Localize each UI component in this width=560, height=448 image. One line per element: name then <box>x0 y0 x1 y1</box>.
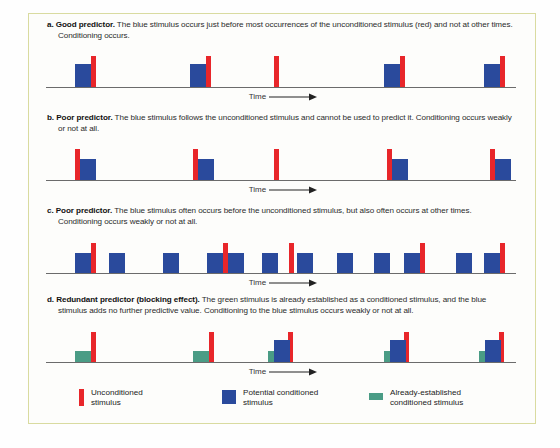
panel-b: b. Poor predictor. The blue stimulus fol… <box>29 113 537 201</box>
potential-conditioned-stimulus-swatch-icon <box>222 390 236 404</box>
legend-item-potential-conditioned: Potential conditioned stimulus <box>222 388 318 409</box>
time-arrow-icon <box>269 93 317 101</box>
panel-b-plot <box>46 136 516 180</box>
bar-green <box>75 351 91 362</box>
panel-b-axis <box>46 180 516 181</box>
legend-item-already-established: Already-established conditioned stimulus <box>369 388 463 409</box>
panel-a-marker: a. <box>47 20 54 29</box>
panel-a-axis <box>46 87 516 88</box>
bar-red <box>75 149 80 180</box>
panel-d: d. Redundant predictor (blocking effect)… <box>29 295 537 383</box>
bar-red <box>490 149 495 180</box>
panel-d-time: Time <box>29 367 537 376</box>
panel-d-time-label: Time <box>249 367 266 376</box>
legend-label-already-established: Already-established conditioned stimulus <box>390 388 463 409</box>
bar-red <box>289 243 294 273</box>
bar-blue <box>262 253 278 273</box>
panel-c-plot <box>46 229 516 273</box>
legend-label-potential-conditioned: Potential conditioned stimulus <box>243 388 318 409</box>
bar-red <box>91 243 96 273</box>
bar-red <box>274 56 279 87</box>
bar-red <box>500 56 505 87</box>
panel-d-marker: d. <box>47 295 54 304</box>
bar-red <box>387 149 392 180</box>
panel-b-time-label: Time <box>249 185 266 194</box>
panel-d-caption: d. Redundant predictor (blocking effect)… <box>47 295 517 316</box>
panel-a-plot <box>46 43 516 87</box>
panel-d-axis <box>46 362 516 363</box>
bar-blue <box>207 253 223 273</box>
panel-c-time-label: Time <box>249 278 266 287</box>
panel-b-caption: b. Poor predictor. The blue stimulus fol… <box>47 113 517 134</box>
time-arrow-icon <box>269 279 317 287</box>
bar-red <box>420 243 425 273</box>
panel-a: a. Good predictor. The blue stimulus occ… <box>29 20 537 108</box>
panel-a-time-label: Time <box>249 92 266 101</box>
bar-blue <box>75 64 91 87</box>
bar-blue <box>485 340 501 362</box>
bar-blue <box>80 159 96 180</box>
bar-blue <box>484 253 500 273</box>
bar-blue <box>190 64 206 87</box>
panel-c-title: Poor predictor. <box>56 206 112 215</box>
bar-blue <box>456 253 472 273</box>
bar-blue <box>198 159 214 180</box>
bar-blue <box>109 253 125 273</box>
bar-red <box>500 243 505 273</box>
bar-red <box>91 56 96 87</box>
bar-blue <box>484 64 500 87</box>
bar-blue <box>337 253 353 273</box>
panel-d-title: Redundant predictor (blocking effect). <box>56 295 200 304</box>
bar-red <box>209 332 214 362</box>
bar-blue <box>297 253 313 273</box>
bar-red <box>91 332 96 362</box>
already-established-conditioned-stimulus-swatch-icon <box>369 393 383 400</box>
panel-a-caption: a. Good predictor. The blue stimulus occ… <box>47 20 517 41</box>
bar-blue <box>392 159 408 180</box>
panel-d-plot <box>46 318 516 362</box>
panel-c-marker: c. <box>47 206 54 215</box>
bar-blue <box>374 253 390 273</box>
bar-blue <box>163 253 179 273</box>
panel-c: c. Poor predictor. The blue stimulus oft… <box>29 206 537 294</box>
bar-blue <box>384 64 400 87</box>
bar-blue <box>274 340 290 362</box>
figure-root: a. Good predictor. The blue stimulus occ… <box>0 0 560 448</box>
bar-blue <box>390 340 406 362</box>
bar-blue <box>75 253 91 273</box>
legend-item-unconditioned: Unconditioned stimulus <box>79 388 143 409</box>
bar-red <box>206 56 211 87</box>
unconditioned-stimulus-swatch-icon <box>79 389 84 406</box>
legend-label-unconditioned: Unconditioned stimulus <box>91 388 143 409</box>
panel-b-body: The blue stimulus follows the unconditio… <box>58 113 512 133</box>
time-arrow-icon <box>269 368 317 376</box>
figure-frame: a. Good predictor. The blue stimulus occ… <box>28 13 536 424</box>
panel-b-marker: b. <box>47 113 54 122</box>
panel-c-axis <box>46 273 516 274</box>
panel-b-title: Poor predictor. <box>56 113 112 122</box>
panel-a-time: Time <box>29 92 537 101</box>
bar-blue <box>404 253 420 273</box>
panel-b-time: Time <box>29 185 537 194</box>
bar-blue <box>495 159 511 180</box>
bar-red <box>274 149 279 180</box>
bar-green <box>193 351 209 362</box>
panel-c-body: The blue stimulus often occurs before th… <box>58 206 472 226</box>
time-arrow-icon <box>269 186 317 194</box>
panel-a-title: Good predictor. <box>56 20 115 29</box>
bar-blue <box>228 253 244 273</box>
panel-c-caption: c. Poor predictor. The blue stimulus oft… <box>47 206 517 227</box>
bar-red <box>193 149 198 180</box>
bar-red <box>400 56 405 87</box>
panel-a-body: The blue stimulus occurs just before mos… <box>58 20 513 40</box>
bar-red <box>223 243 228 273</box>
panel-c-time: Time <box>29 278 537 287</box>
legend: Unconditioned stimulus Potential conditi… <box>47 388 517 420</box>
